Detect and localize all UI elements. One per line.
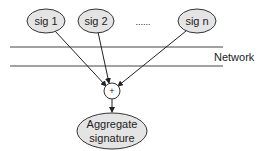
network-label: Network bbox=[214, 51, 255, 63]
sig-node-2: sig 2 bbox=[78, 9, 114, 33]
plus-symbol: + bbox=[109, 86, 114, 96]
ellipsis: ...... bbox=[135, 17, 150, 27]
sig-node-n: sig n bbox=[178, 9, 216, 33]
sig-label: sig 2 bbox=[84, 15, 107, 27]
aggregate-line1: Aggregate bbox=[87, 118, 138, 130]
sig-label: sig n bbox=[185, 15, 208, 27]
combiner-node: + bbox=[104, 83, 120, 99]
aggregate-line2: signature bbox=[89, 132, 134, 144]
arrow-sign bbox=[118, 31, 186, 86]
aggregate-signature-node: Aggregate signature bbox=[77, 113, 147, 149]
arrow-sig2 bbox=[98, 32, 109, 83]
arrow-sig1 bbox=[55, 31, 106, 86]
aggregate-signature-diagram: Network sig 1 sig 2 ...... sig n + Aggre… bbox=[0, 0, 257, 151]
sig-node-1: sig 1 bbox=[27, 9, 65, 33]
sig-label: sig 1 bbox=[34, 15, 57, 27]
